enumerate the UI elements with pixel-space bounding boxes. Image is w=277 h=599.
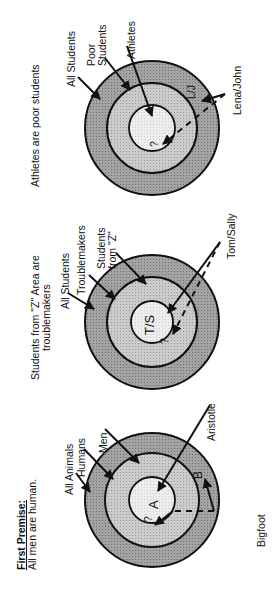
diagram-1-circles bbox=[76, 405, 219, 567]
label-humans: Humans bbox=[76, 438, 87, 477]
label-troublemakers: Troublemakers bbox=[76, 225, 87, 295]
label-athletes: Athletes bbox=[126, 21, 137, 59]
label-all-students: All Students bbox=[66, 31, 77, 87]
label-tom-sally: Tom/Sally bbox=[226, 213, 237, 259]
label-bigfoot: Bigfoot bbox=[256, 514, 267, 547]
marker-t-s: T/S bbox=[144, 315, 155, 335]
syllogism-diagram-figure: First Premise: All men are human. All An… bbox=[0, 0, 277, 599]
diagram-3-circles bbox=[78, 46, 225, 195]
label-poor-students: Poor Students bbox=[86, 25, 108, 66]
label-men: Men bbox=[98, 433, 109, 453]
question-mark: ? bbox=[159, 338, 170, 344]
label-aristotle: Aristotle bbox=[206, 403, 217, 441]
label-all-animals: All Animals bbox=[64, 444, 75, 495]
premise-heading: Athletes are poor students bbox=[30, 64, 41, 187]
marker-a: A bbox=[148, 500, 159, 509]
label-all-students: All Students bbox=[60, 253, 71, 309]
marker-b: B bbox=[193, 471, 204, 479]
question-mark: ? bbox=[143, 516, 154, 522]
label-lena-john: Lena/John bbox=[232, 66, 243, 115]
question-mark: ? bbox=[149, 141, 160, 147]
label-students-from-z: Students from "Z" bbox=[96, 228, 118, 269]
marker-l-j: L/J bbox=[186, 85, 197, 99]
premise-heading: Students from "Z" Area are troublemakers bbox=[30, 255, 52, 380]
premise-heading: First Premise: All men are human. bbox=[16, 479, 38, 570]
